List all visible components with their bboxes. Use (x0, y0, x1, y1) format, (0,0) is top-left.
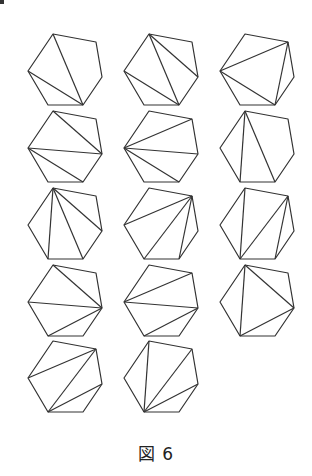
diagonal (124, 148, 198, 154)
diagonal (48, 308, 102, 336)
diagonal (220, 71, 275, 105)
diagonal (144, 308, 198, 336)
diagonal (28, 71, 83, 105)
hexagon-triangulation-10 (28, 265, 102, 336)
hexagon-triangulation-8 (124, 188, 198, 259)
diagonal (53, 111, 102, 154)
figure-caption: 図 6 (0, 440, 312, 465)
diagonal (28, 302, 102, 308)
hexagon-triangulation-9 (220, 188, 294, 259)
hexagon-triangulation-1 (28, 34, 102, 105)
diagonal (28, 148, 83, 182)
diagonal (53, 188, 102, 231)
hexagon-triangulation-3 (220, 34, 294, 105)
hexagon-triangulation-6 (220, 111, 294, 182)
hexagon-outline (220, 111, 294, 182)
diagonal (240, 265, 245, 336)
diagonal (144, 341, 149, 412)
diagonal (124, 71, 179, 105)
diagonal (53, 188, 83, 259)
hexagon-triangulation-14 (124, 341, 198, 412)
diagonal (53, 34, 83, 105)
hexagon-outline (124, 341, 198, 412)
hexagon-triangulation-5 (124, 111, 198, 182)
diagonal (48, 384, 102, 412)
hexagon-triangulation-11 (124, 265, 198, 336)
hexagon-triangulation-12 (220, 265, 294, 336)
diagonal (149, 34, 179, 105)
hexagon-triangulation-4 (28, 111, 102, 182)
diagonal (53, 265, 102, 308)
diagonal (240, 308, 294, 336)
diagonal (28, 148, 102, 154)
hexagon-triangulation-2 (124, 34, 198, 105)
diagonal (240, 188, 245, 259)
hexagon-triangulation-7 (28, 188, 102, 259)
diagonal (245, 111, 275, 182)
hexagon-triangulation-13 (28, 341, 102, 412)
diagonal (124, 302, 198, 308)
diagonal (144, 384, 198, 412)
triangulation-figure (0, 0, 312, 440)
diagonal (245, 265, 294, 308)
diagonal (149, 34, 198, 77)
diagonal (48, 188, 53, 259)
diagonal (240, 111, 245, 182)
diagonal (124, 148, 179, 182)
